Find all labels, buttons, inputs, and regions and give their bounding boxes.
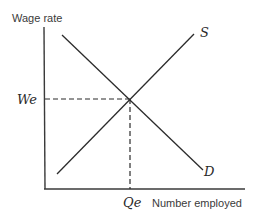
x-axis-label: Number employed: [152, 197, 242, 209]
supply-demand-diagram: Wage rate Number employed S D We Qe: [0, 0, 262, 218]
demand-label: D: [203, 164, 215, 179]
wage-equilibrium-label: We: [17, 92, 37, 107]
demand-curve: [62, 35, 203, 170]
y-axis-label: Wage rate: [12, 12, 62, 24]
supply-curve: [57, 34, 194, 174]
quantity-equilibrium-label: Qe: [123, 195, 142, 210]
diagram-canvas: Wage rate Number employed S D We Qe: [0, 0, 262, 218]
supply-label: S: [200, 25, 209, 40]
y-axis: [44, 27, 45, 189]
